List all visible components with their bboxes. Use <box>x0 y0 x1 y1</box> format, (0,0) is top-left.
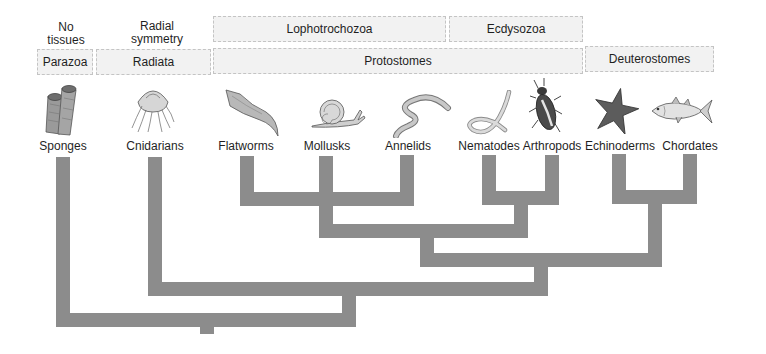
sea-star-icon <box>592 86 640 134</box>
branch-cnidarians <box>148 157 162 296</box>
roundworm-icon <box>465 90 515 138</box>
branch-sponges <box>56 157 70 327</box>
fish-icon <box>650 96 714 126</box>
group-box-ecdysozoa: Ecdysozoa <box>449 16 583 42</box>
group-box-protostomes: Protostomes <box>213 48 583 74</box>
taxon-label-sponges: Sponges <box>39 139 86 153</box>
earthworm-icon <box>392 94 452 138</box>
taxon-label-nematodes: Nematodes <box>458 139 519 153</box>
group-box-lophotrochozoa: Lophotrochozoa <box>213 16 446 42</box>
jellyfish-icon <box>128 82 178 134</box>
taxon-label-chordates: Chordates <box>662 139 717 153</box>
flatworm-icon <box>222 86 282 138</box>
taxon-label-arthropods: Arthropods <box>523 139 582 153</box>
beetle-icon <box>528 78 564 138</box>
group-box-deuterostomes: Deuterostomes <box>585 46 714 72</box>
taxon-label-annelids: Annelids <box>385 139 431 153</box>
group-box-radiata: Radiata <box>96 49 211 75</box>
group-box-parazoa: Parazoa <box>37 49 93 75</box>
sponge-icon <box>42 82 82 138</box>
group-label-parazoa: Parazoa <box>43 55 88 69</box>
taxon-label-flatworms: Flatworms <box>218 139 273 153</box>
group-label-deuterostomes: Deuterostomes <box>609 52 690 66</box>
root-stem <box>200 313 214 334</box>
taxon-label-cnidarians: Cnidarians <box>126 139 183 153</box>
group-label-ecdysozoa: Ecdysozoa <box>487 22 546 36</box>
node-lophotrochozoa <box>240 192 414 206</box>
taxon-label-echinoderms: Echinoderms <box>585 139 655 153</box>
caption-radial-symmetry: Radial symmetry <box>122 20 192 46</box>
snail-icon <box>310 96 370 130</box>
group-label-radiata: Radiata <box>133 55 174 69</box>
group-label-protostomes: Protostomes <box>364 54 431 68</box>
taxon-label-mollusks: Mollusks <box>304 139 351 153</box>
caption-no-tissues: No tissues <box>40 21 92 47</box>
group-label-lophotrochozoa: Lophotrochozoa <box>286 22 372 36</box>
